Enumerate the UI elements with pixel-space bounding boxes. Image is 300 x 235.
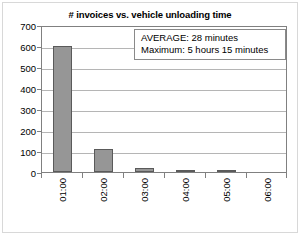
y-tick-mark (37, 152, 41, 153)
y-tick-mark (37, 131, 41, 132)
y-tick-mark (37, 110, 41, 111)
y-tick-label: 400 (0, 84, 36, 95)
y-tick-mark (37, 68, 41, 69)
y-tick-label: 500 (0, 63, 36, 74)
x-tick-label: 03:00 (139, 178, 150, 202)
y-tick-label: 600 (0, 42, 36, 53)
bar-03-00[interactable] (135, 168, 153, 172)
chart-container: # invoices vs. vehicle unloading time 01… (0, 0, 300, 235)
y-tick-label: 700 (0, 21, 36, 32)
y-tick-label: 200 (0, 126, 36, 137)
bar-05-00[interactable] (217, 170, 235, 172)
y-tick-mark (37, 173, 41, 174)
stats-annotation-box: AVERAGE: 28 minutes Maximum: 5 hours 15 … (134, 29, 286, 60)
chart-title: # invoices vs. vehicle unloading time (0, 9, 300, 20)
y-tick-mark (37, 26, 41, 27)
average-label: AVERAGE: 28 minutes (141, 32, 281, 44)
y-tick-label: 100 (0, 147, 36, 158)
x-tick-label: 05:00 (221, 178, 232, 202)
y-tick-label: 0 (0, 168, 36, 179)
bar-02-00[interactable] (94, 149, 112, 172)
x-tick-label: 01:00 (57, 178, 68, 202)
x-tick-label: 04:00 (180, 178, 191, 202)
bar-01-00[interactable] (53, 46, 71, 172)
bar-04-00[interactable] (176, 170, 194, 172)
y-tick-mark (37, 89, 41, 90)
maximum-label: Maximum: 5 hours 15 minutes (141, 44, 281, 56)
y-axis: 0100200300400500600700 (0, 26, 36, 173)
y-tick-mark (37, 47, 41, 48)
x-axis: 01:0002:0003:0004:0005:0006:00 (41, 178, 287, 228)
x-tick-label: 06:00 (262, 178, 273, 202)
x-tick-label: 02:00 (98, 178, 109, 202)
y-tick-label: 300 (0, 105, 36, 116)
